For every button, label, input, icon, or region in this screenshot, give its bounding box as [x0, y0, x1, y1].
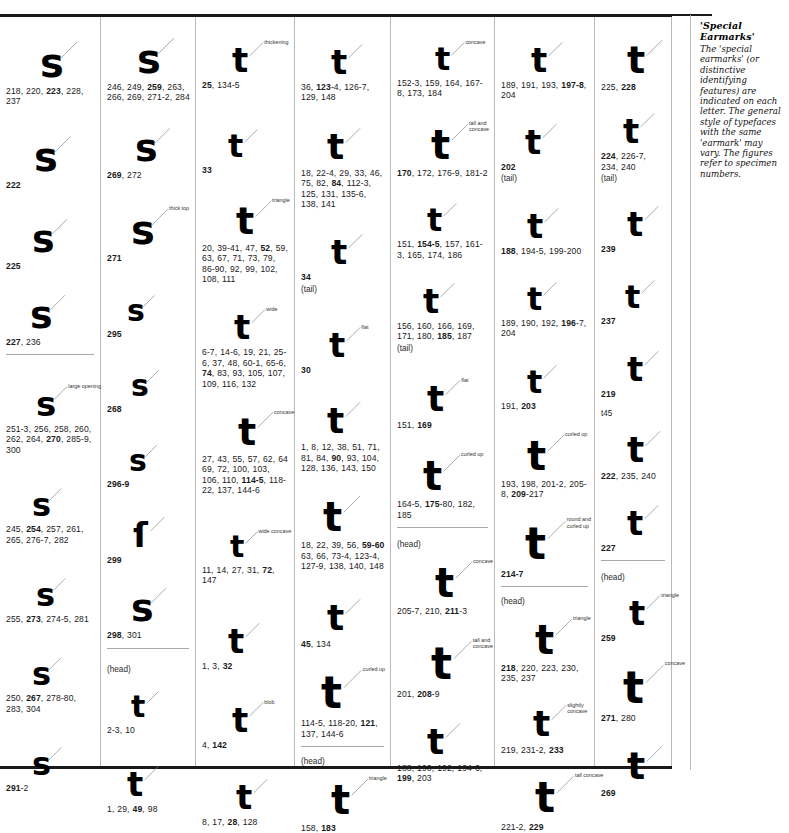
- earmark-entry: t1, 29, 49, 98: [101, 751, 195, 814]
- specimen-letter-glyph: t: [236, 202, 254, 240]
- specimen-letter-glyph: t: [232, 43, 248, 77]
- earmark-caption: flat: [361, 324, 368, 330]
- specimen-reference-numbers: 214-7: [501, 569, 589, 579]
- earmark-entry: tcurled up164-5, 175-80, 182, 185: [391, 444, 494, 520]
- earmark-entry: t269: [595, 735, 671, 798]
- earmark-entry: t219: [595, 340, 671, 399]
- earmark-entry: s296-9: [101, 432, 195, 489]
- specimen-reference-numbers: 2-3, 10: [107, 725, 190, 735]
- glyph-row: t: [397, 192, 489, 236]
- specimen-reference-numbers: 251-3, 256, 258, 260, 262, 264, 270, 285…: [6, 424, 95, 455]
- specimen-letter-glyph: t: [230, 532, 244, 562]
- earmark-entry: twide6-7, 14-6, 19, 21, 25-6, 37, 48, 60…: [196, 296, 294, 389]
- specimen-reference-numbers: 33: [202, 165, 289, 175]
- glyph-row: s: [107, 282, 190, 326]
- specimen-reference-numbers: 237: [601, 316, 666, 326]
- earmark-entry: t151, 154-5, 157, 161-3, 165, 174, 186: [391, 192, 494, 260]
- earmark-entry: t156, 160, 166, 169, 171, 180, 185, 187(…: [391, 272, 494, 353]
- glyph-row: s: [107, 119, 190, 167]
- entry-note: (tail): [397, 344, 489, 353]
- glyph-row: twide concave: [202, 518, 289, 562]
- earmark-entry: (head)ttriangle158, 183: [295, 757, 390, 833]
- earmark-pointer-line: [501, 354, 589, 398]
- specimen-letter-glyph: t: [331, 235, 347, 269]
- earmark-pointer-line: [501, 197, 589, 243]
- glyph-row: tconcave: [202, 401, 289, 451]
- section-divider: [601, 560, 665, 561]
- specimen-reference-numbers: 296-9: [107, 479, 190, 489]
- earmark-caption: blob: [264, 699, 274, 705]
- earmark-entry: t189, 191, 193, 197-8, 204: [495, 31, 594, 101]
- sidebar-title: 'Special Earmarks': [700, 20, 784, 42]
- specimen-reference-numbers: 219, 231-2, 233: [501, 745, 589, 755]
- entry-note: (head): [107, 665, 190, 674]
- entry-note: t45: [601, 409, 666, 418]
- specimen-reference-numbers: 271: [107, 253, 190, 263]
- earmark-column-6: t189, 191, 193, 197-8, 204t202(tail)t188…: [495, 17, 595, 766]
- specimen-letter-glyph: s: [131, 210, 155, 250]
- specimen-reference-numbers: 269, 272: [107, 170, 190, 180]
- specimen-letter-glyph: ſ: [133, 518, 148, 552]
- specimen-reference-numbers: 188, 194-5, 199-200: [501, 246, 589, 256]
- glyph-row: t: [397, 712, 489, 760]
- earmark-pointer-line: [397, 272, 489, 318]
- specimen-reference-numbers: 268: [107, 404, 190, 414]
- glyph-row: t: [202, 116, 289, 162]
- specimen-reference-numbers: 30: [301, 365, 385, 375]
- earmark-pointer-line: [202, 612, 289, 658]
- earmark-caption: thickening: [264, 39, 298, 45]
- specimen-reference-numbers: 45, 134: [301, 639, 385, 649]
- earmark-entry: t33: [196, 116, 294, 175]
- glyph-row: t: [501, 113, 589, 159]
- specimen-letter-glyph: t: [431, 125, 450, 165]
- glyph-row: t: [501, 31, 589, 77]
- earmark-entry: tflat30: [295, 316, 390, 375]
- specimen-reference-numbers: 1, 29, 49, 98: [107, 804, 190, 814]
- earmark-entry: ttall and concave170, 172, 176-9, 181-2: [391, 113, 494, 178]
- specimen-letter-glyph: t: [435, 43, 450, 75]
- entry-note: (tail): [601, 174, 666, 183]
- section-divider: [6, 354, 94, 355]
- earmark-caption: triangle: [272, 197, 290, 203]
- earmark-entry: (head)ttriangle259: [595, 573, 671, 643]
- glyph-row: tcurled up: [301, 661, 385, 715]
- glyph-row: t: [301, 33, 385, 79]
- earmark-entry: s255, 273, 274-5, 281: [0, 561, 100, 624]
- section-divider: [397, 527, 488, 528]
- specimen-reference-numbers: 299: [107, 555, 190, 565]
- earmark-entry: s227, 236: [0, 286, 100, 347]
- glyph-row: tblob: [202, 691, 289, 737]
- glyph-row: s: [6, 33, 95, 83]
- glyph-row: tcurled up: [397, 444, 489, 496]
- earmark-entry: t18, 22, 39, 56, 59-60 63, 66, 73-4, 123…: [295, 485, 390, 571]
- specimen-reference-numbers: 259: [601, 633, 666, 643]
- specimen-reference-numbers: 11, 14, 27, 31, 72, 147: [202, 565, 289, 586]
- earmark-pointer-line: [107, 282, 190, 326]
- glyph-row: t: [202, 612, 289, 658]
- specimen-letter-glyph: s: [32, 658, 51, 690]
- earmark-entry: t8, 17, 28, 128: [196, 766, 294, 827]
- specimen-reference-numbers: 8, 17, 28, 128: [202, 817, 289, 827]
- glyph-row: sthick top: [107, 200, 190, 250]
- specimen-letter-glyph: s: [36, 579, 55, 611]
- glyph-row: s: [6, 730, 95, 780]
- specimen-letter-glyph: s: [30, 296, 53, 334]
- section-divider: [301, 746, 384, 747]
- earmark-entry: s250, 267, 278-80, 283, 304: [0, 640, 100, 714]
- earmark-caption: curled up: [461, 451, 483, 457]
- entry-note: (head): [397, 540, 489, 549]
- glyph-row: t: [301, 391, 385, 439]
- earmark-pointer-line: [397, 192, 489, 236]
- earmark-pointer-line: [202, 518, 289, 562]
- earmark-pointer-line: [107, 504, 190, 552]
- earmark-entry: t188, 190, 192, 194-6, 199, 203: [391, 712, 494, 784]
- special-earmarks-sidebar: 'Special Earmarks' The 'special earmarks…: [700, 20, 784, 179]
- specimen-letter-glyph: t: [423, 456, 442, 496]
- earmark-column-2: s246, 249, 259, 263, 266, 269, 271-2, 28…: [101, 17, 196, 766]
- earmark-entry: t202(tail): [495, 113, 594, 183]
- specimen-letter-glyph: t: [527, 366, 542, 398]
- earmark-entry: tcurled up114-5, 118-20, 121, 137, 144-6: [295, 661, 390, 739]
- specimen-letter-glyph: t: [627, 747, 645, 785]
- earmark-entry: tconcave27, 43, 55, 57, 62, 64 69, 72, 1…: [196, 401, 294, 496]
- earmark-caption: triangle: [573, 615, 591, 621]
